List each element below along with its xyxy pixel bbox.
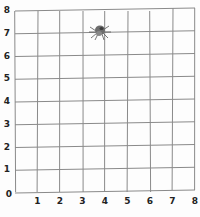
grid-vline — [150, 11, 151, 192]
y-axis-label: 2 — [4, 142, 10, 152]
x-axis-label: 5 — [124, 196, 130, 206]
x-axis-label: 0 — [6, 189, 12, 199]
y-axis-label: 5 — [4, 73, 10, 83]
y-axis-label: 3 — [4, 119, 10, 129]
x-axis-label: 1 — [34, 196, 40, 206]
x-axis-label: 8 — [192, 196, 198, 206]
spider-icon — [88, 21, 112, 41]
y-axis-label: 4 — [4, 96, 10, 106]
y-axis-label: 7 — [4, 28, 10, 38]
x-axis-label: 6 — [147, 196, 153, 206]
x-axis-label: 7 — [169, 196, 175, 206]
y-axis-label: 6 — [4, 51, 10, 61]
x-axis-label: 2 — [57, 196, 63, 206]
x-axis-label: 3 — [79, 196, 85, 206]
grid-diagram: 01234567812345678 — [0, 0, 200, 217]
y-axis-label: 1 — [4, 164, 10, 174]
grid-hline — [15, 8, 195, 11]
y-axis-label: 8 — [4, 5, 10, 15]
grid-vline — [127, 11, 128, 192]
x-axis-label: 4 — [102, 196, 108, 206]
